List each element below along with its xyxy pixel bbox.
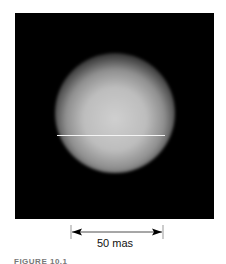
stellar-disk [55, 53, 175, 173]
scale-bar-label: 50 mas [0, 237, 226, 249]
horizontal-streak [57, 135, 165, 136]
stellar-image-panel [15, 13, 214, 219]
figure-caption: FIGURE 10.1 [14, 257, 68, 264]
